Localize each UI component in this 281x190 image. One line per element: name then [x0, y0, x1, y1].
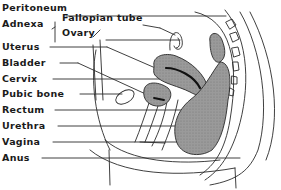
- label-uterus: Uterus: [2, 42, 40, 52]
- pubic-bone-shape: [113, 87, 136, 107]
- rectum-upper-shape: [210, 33, 225, 62]
- label-anus: Anus: [2, 153, 30, 163]
- label-adnexa: Adnexa: [2, 19, 44, 29]
- label-peritoneum: Peritoneum: [2, 3, 67, 13]
- leader-fallopian-tube: [143, 25, 160, 28]
- bladder-shape: [144, 83, 171, 106]
- label-urethra: Urethra: [2, 121, 45, 131]
- label-pubic-bone: Pubic bone: [2, 89, 64, 99]
- label-ovary: Ovary: [62, 28, 95, 38]
- label-bladder: Bladder: [2, 58, 46, 68]
- label-fallopian-tube: Fallopian tube: [62, 13, 143, 23]
- female-pelvis-diagram: Peritoneum Adnexa Fallopian tube Ovary U…: [0, 0, 281, 190]
- label-vagina: Vagina: [2, 137, 40, 147]
- label-rectum: Rectum: [2, 105, 44, 115]
- label-cervix: Cervix: [2, 74, 37, 84]
